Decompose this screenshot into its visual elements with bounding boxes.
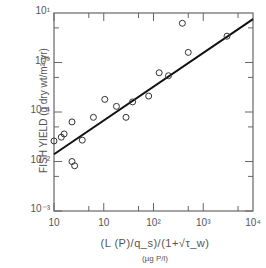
data-point	[146, 93, 152, 99]
x-axis-label: (L (P)/q_s)/(1+√τ_w)	[60, 237, 250, 249]
x-tick-label: 10	[89, 217, 119, 228]
data-point	[179, 20, 185, 26]
axis-ticks	[54, 13, 253, 211]
regression-line	[54, 19, 253, 154]
data-point	[123, 114, 129, 120]
data-point	[79, 137, 85, 143]
data-point	[102, 96, 108, 102]
data-point	[90, 114, 96, 120]
x-tick-label: 10	[39, 217, 69, 228]
data-point	[156, 70, 162, 76]
x-tick-label: 10⁴	[238, 217, 266, 228]
y-axis-label: FISH YIELD (g dry wt/m²·yr)	[38, 16, 49, 206]
data-point	[113, 103, 119, 109]
x-axis-units: (µg P/l)	[60, 254, 250, 263]
x-tick-label: 10²	[139, 217, 169, 228]
data-point	[185, 49, 191, 55]
y-tick-label: 10¹	[24, 5, 50, 16]
x-tick-label: 10³	[188, 217, 218, 228]
plot-frame	[54, 13, 253, 211]
data-point	[69, 119, 75, 125]
